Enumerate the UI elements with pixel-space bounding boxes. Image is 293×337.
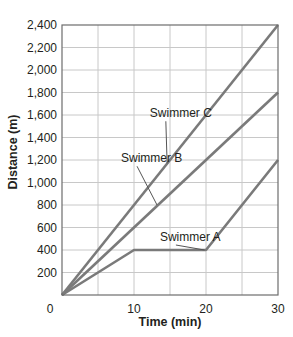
series-label: Swimmer A bbox=[160, 230, 221, 244]
series-label: Swimmer B bbox=[121, 151, 182, 165]
y-tick-label: 400 bbox=[37, 243, 57, 257]
x-tick-label: 10 bbox=[127, 302, 141, 316]
y-tick-label: 1,000 bbox=[27, 176, 57, 190]
y-axis-ticks: 2004006008001,0001,2001,4001,6001,8002,0… bbox=[27, 18, 57, 280]
y-tick-label: 600 bbox=[37, 221, 57, 235]
y-tick-label: 1,200 bbox=[27, 153, 57, 167]
series-label: Swimmer C bbox=[150, 106, 212, 120]
x-axis-ticks: 0102030 bbox=[47, 302, 285, 316]
x-axis-title: Time (min) bbox=[139, 315, 202, 329]
x-tick-label: 0 bbox=[47, 302, 54, 316]
y-tick-label: 2,200 bbox=[27, 41, 57, 55]
y-tick-label: 1,600 bbox=[27, 108, 57, 122]
x-tick-label: 30 bbox=[271, 302, 285, 316]
y-tick-label: 2,000 bbox=[27, 63, 57, 77]
y-tick-label: 1,800 bbox=[27, 86, 57, 100]
y-tick-label: 2,400 bbox=[27, 18, 57, 32]
x-tick-label: 20 bbox=[199, 302, 213, 316]
y-tick-label: 1,400 bbox=[27, 131, 57, 145]
distance-time-chart: Swimmer CSwimmer BSwimmer A 200400600800… bbox=[0, 0, 293, 337]
y-axis-title: Distance (m) bbox=[6, 114, 20, 189]
y-tick-label: 200 bbox=[37, 266, 57, 280]
y-tick-label: 800 bbox=[37, 198, 57, 212]
